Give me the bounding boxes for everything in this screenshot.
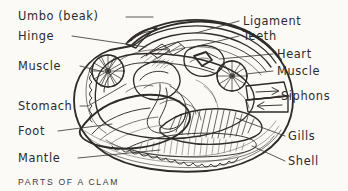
gills [128,109,262,157]
label-teeth: Teeth [242,29,277,43]
shell-outline [74,22,293,172]
label-muscle-right: Muscle [277,64,320,78]
label-muscle-left: Muscle [18,59,61,73]
label-umbo: Umbo (beak) [18,9,99,23]
label-mantle: Mantle [18,151,60,165]
label-stomach: Stomach [18,99,72,113]
clam-anatomy-figure: Umbo (beak) Hinge Muscle Stomach Foot Ma… [0,0,348,191]
labels-right: Ligament Teeth Heart Muscle Siphons Gill… [242,14,330,168]
mantle-edge [106,136,274,167]
left-adductor-muscle [92,55,124,87]
excurrent-arrow [257,102,282,110]
intestine-coil [147,84,201,133]
figure-caption: PARTS OF A CLAM [18,177,119,187]
label-foot: Foot [18,124,45,138]
mantle-body-mass [95,54,254,139]
label-heart: Heart [277,47,312,61]
label-shell: Shell [288,154,319,168]
label-siphons: Siphons [281,89,330,103]
label-gills: Gills [288,129,315,143]
clam-diagram-svg: Umbo (beak) Hinge Muscle Stomach Foot Ma… [0,0,348,191]
incurrent-arrow [256,88,279,95]
leader-gills [236,118,285,136]
stomach-visceral-mass [133,61,180,99]
label-hinge: Hinge [18,29,54,43]
label-ligament: Ligament [243,14,301,28]
right-adductor-muscle [217,61,247,91]
leader-heart [219,54,273,59]
leader-foot [58,124,112,131]
